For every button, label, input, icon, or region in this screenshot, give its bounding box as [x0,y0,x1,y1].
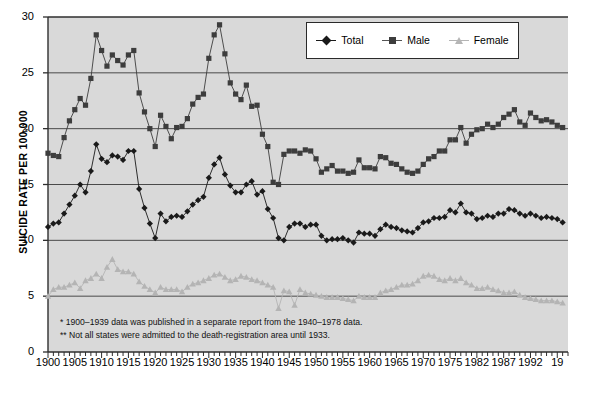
footnote-1: * 1900–1939 data was published in a sepa… [60,316,490,329]
data-point [421,162,426,167]
x-axis-tick-labels: 1900190519101915192019251930193519401945… [0,357,591,377]
data-point [153,144,158,149]
data-point [99,48,104,53]
data-point [190,102,195,107]
data-point [265,144,270,149]
data-point [399,166,404,171]
data-point [453,137,458,142]
x-tick-label: 1920 [143,357,167,368]
data-point [201,91,206,96]
data-point [179,124,184,129]
data-point [469,132,474,137]
x-tick-label: 1950 [304,357,328,368]
x-tick-label: 1925 [170,357,194,368]
data-point [228,80,233,85]
data-point [555,123,560,128]
x-tick-label: 19 [551,357,563,368]
data-point [287,148,292,153]
data-point [126,52,131,57]
data-point [131,48,136,53]
data-point [501,115,506,120]
data-point [410,171,415,176]
data-point [496,122,501,127]
data-point [276,182,281,187]
data-point [61,135,66,140]
data-point [340,169,345,174]
data-point [485,122,490,127]
data-point [367,165,372,170]
data-point [388,161,393,166]
data-point [346,171,351,176]
data-point [254,103,259,108]
footnote-2: ** Not all states were admitted to the d… [60,329,490,342]
data-point [142,109,147,114]
data-point [362,165,367,170]
x-tick-label: 1910 [89,357,113,368]
data-point [163,124,168,129]
data-point [78,96,83,101]
data-point [394,162,399,167]
data-point [83,103,88,108]
data-point [72,107,77,112]
data-point [437,148,442,153]
data-point [303,147,308,152]
data-point [426,156,431,161]
legend-label-male: Male [407,35,430,46]
legend-item-total[interactable]: Total [316,35,363,46]
x-tick-label: 1992 [518,357,542,368]
data-point [297,151,302,156]
data-point [115,58,120,63]
legend-item-male[interactable]: Male [382,35,430,46]
data-point [528,110,533,115]
chart-legend: Total Male Female [306,22,519,59]
data-point [206,56,211,61]
data-point [523,123,528,128]
female-series-icon [449,36,469,45]
data-point [249,104,254,109]
data-point [185,116,190,121]
data-point [464,141,469,146]
data-point [378,154,383,159]
data-point [356,157,361,162]
data-point [88,76,93,81]
data-point [474,127,479,132]
x-tick-label: 1940 [250,357,274,368]
data-point [56,154,61,159]
suicide-rate-chart: SUICIDE RATE PER 100,000 051015202530 * … [0,0,591,402]
data-point [560,125,565,130]
legend-label-female: Female [474,35,509,46]
x-tick-label: 1982 [465,357,489,368]
data-point [147,126,152,131]
data-point [506,112,511,117]
data-point [447,137,452,142]
data-point [104,64,109,69]
data-point [512,107,517,112]
data-point [271,180,276,185]
data-point [442,148,447,153]
data-point [67,118,72,123]
legend-label-total: Total [341,35,363,46]
data-point [490,125,495,130]
total-series-icon [316,36,336,45]
data-point [549,119,554,124]
data-point [110,52,115,57]
data-point [45,151,50,156]
data-point [212,32,217,37]
data-point [431,154,436,159]
data-point [383,155,388,160]
data-point [351,170,356,175]
x-tick-label: 1915 [116,357,140,368]
x-tick-label: 1960 [357,357,381,368]
data-point [330,163,335,168]
data-point [169,136,174,141]
x-tick-label: 1945 [277,357,301,368]
x-tick-label: 1900 [36,357,60,368]
x-tick-label: 1970 [411,357,435,368]
data-point [292,148,297,153]
data-point [313,156,318,161]
legend-item-female[interactable]: Female [449,35,509,46]
data-point [51,153,56,158]
data-point [196,95,201,100]
x-tick-label: 1930 [197,357,221,368]
data-point [137,90,142,95]
